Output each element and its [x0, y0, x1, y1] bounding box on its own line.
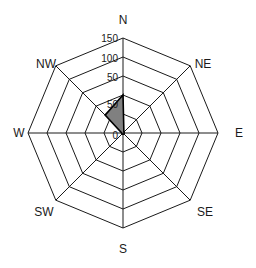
direction-label-w: W [13, 126, 25, 140]
radial-tick-label-0: 0 [112, 130, 118, 141]
radar-chart: N NE E SE S SW W NW 150 100 50 50 0 [0, 0, 256, 268]
radial-tick-label-150: 150 [101, 33, 118, 44]
direction-label-ne: NE [195, 57, 212, 71]
radial-tick-label-100: 100 [101, 53, 118, 64]
direction-label-se: SE [197, 205, 213, 219]
radar-chart-svg: N NE E SE S SW W NW 150 100 50 50 0 [0, 0, 256, 268]
radial-tick-label-50: 50 [107, 72, 119, 83]
direction-label-nw: NW [36, 57, 57, 71]
direction-label-n: N [119, 13, 128, 27]
direction-label-e: E [235, 126, 243, 140]
direction-label-sw: SW [34, 205, 54, 219]
radial-tick-label-50b: 50 [107, 99, 119, 110]
direction-label-s: S [119, 242, 127, 256]
